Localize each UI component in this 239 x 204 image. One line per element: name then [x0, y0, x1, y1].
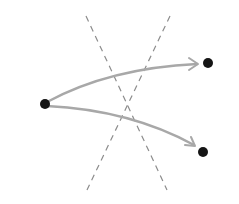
dashed-line-b: [87, 16, 170, 190]
dashed-line-a: [86, 16, 167, 190]
point-target-top: [203, 58, 213, 68]
dashed-lines: [86, 16, 170, 190]
point-source: [40, 99, 50, 109]
point-target-bottom: [198, 147, 208, 157]
arrow-top-curve: [47, 64, 197, 102]
arrows: [47, 58, 198, 146]
arrow-top: [47, 58, 198, 102]
diagram-canvas: [0, 0, 239, 204]
arrow-bottom-curve: [47, 106, 194, 145]
arrow-bottom: [47, 106, 195, 146]
